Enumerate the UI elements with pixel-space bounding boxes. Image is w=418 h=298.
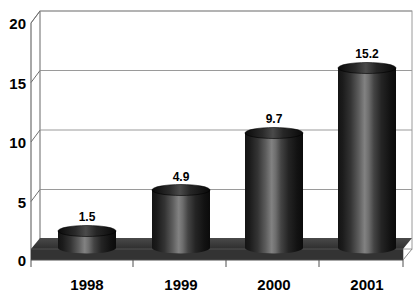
y-tick-label-10: 10 <box>9 134 26 151</box>
bar-2001[interactable] <box>338 63 396 254</box>
bar-1999[interactable] <box>152 185 210 254</box>
chart-canvas: 20 15 10 5 0 <box>0 0 418 298</box>
bar-cap-1998 <box>58 226 116 237</box>
bar-1998[interactable] <box>58 226 116 254</box>
value-label-2001: 15.2 <box>355 47 379 61</box>
bar-base-1998 <box>58 243 116 254</box>
bar-base-1999 <box>152 243 210 254</box>
x-category-label-2001: 2001 <box>350 276 383 293</box>
bar-cap-2000 <box>245 128 303 139</box>
value-label-2000: 9.7 <box>266 112 283 126</box>
bar-cap-2001 <box>338 63 396 74</box>
bar-chart: 20 15 10 5 0 <box>0 0 418 298</box>
y-tick-label-0: 0 <box>18 252 26 269</box>
bar-cap-1999 <box>152 185 210 196</box>
bar-base-2001 <box>338 243 396 254</box>
value-label-1998: 1.5 <box>79 210 96 224</box>
bar-body-2000 <box>245 133 303 248</box>
value-label-1999: 4.9 <box>173 170 190 184</box>
y-tick-label-20: 20 <box>9 15 26 32</box>
y-tick-label-15: 15 <box>9 75 26 92</box>
x-category-label-1999: 1999 <box>164 276 197 293</box>
bar-2000[interactable] <box>245 128 303 254</box>
x-category-label-1998: 1998 <box>70 276 103 293</box>
y-tick-label-5: 5 <box>18 194 26 211</box>
x-category-label-2000: 2000 <box>257 276 290 293</box>
bar-body-2001 <box>338 68 396 248</box>
bar-body-1999 <box>152 190 210 248</box>
bar-base-2000 <box>245 243 303 254</box>
